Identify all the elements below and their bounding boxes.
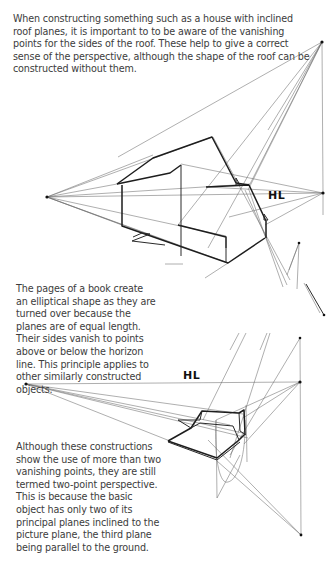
- horizon-line-label-house: HL: [268, 189, 285, 202]
- scattered-construction-marks: [230, 242, 325, 350]
- house-outline: [117, 137, 268, 263]
- book-paragraph: The pages of a book create an elliptical…: [16, 283, 156, 396]
- book-outline: [168, 410, 246, 460]
- two-point-paragraph: Although these constructions show the us…: [16, 441, 161, 554]
- right-vanishing-point: [321, 191, 324, 194]
- left-vanishing-point: [45, 195, 48, 198]
- horizon-line-label-book: HL: [183, 369, 200, 382]
- house-construction-lines: [47, 42, 323, 287]
- top-vanishing-point: [320, 40, 323, 43]
